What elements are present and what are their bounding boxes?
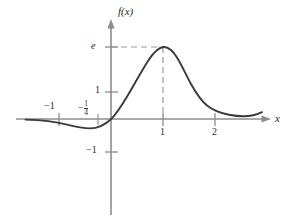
y-tick-label-one: 1 [95,85,100,95]
x-tick-label-two: 2 [212,127,217,137]
fraction-one-quarter: 14 [84,100,89,117]
y-tick-label-negative-one: −1 [86,145,97,155]
function-graph-figure: f(x) x e 1 −1 −1 −14 1 2 [0,0,289,221]
y-axis-arrowhead [107,19,114,29]
x-axis-label: x [275,113,280,124]
x-tick-label-negative-one: −1 [44,101,55,111]
y-axis-label: f(x) [118,6,133,17]
fraction-denominator: 4 [84,109,89,117]
x-tick-label-negative-one-quarter: −14 [78,99,88,117]
function-curve [26,47,263,128]
x-axis-arrowhead [262,115,272,122]
x-tick-label-one: 1 [160,127,165,137]
y-tick-label-e: e [91,41,95,51]
